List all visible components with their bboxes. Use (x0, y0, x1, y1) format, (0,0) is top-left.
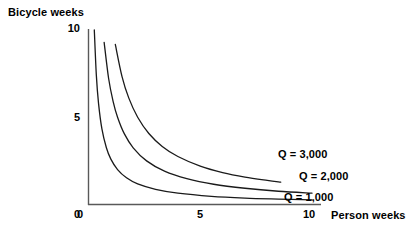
x-tick-label-10: 10 (300, 209, 318, 220)
curve-label-q3000: Q = 3,000 (278, 149, 328, 160)
curve-label-q1000: Q = 1,000 (284, 192, 334, 203)
x-axis-title: Person weeks (331, 210, 406, 221)
curve-label-q2000: Q = 2,000 (299, 171, 349, 182)
y-tick-label-10: 10 (62, 23, 80, 34)
y-tick-label-5: 5 (62, 112, 80, 123)
x-tick-label-0: 0 (71, 209, 89, 220)
x-tick-label-5: 5 (191, 209, 209, 220)
y-axis-title: Bicycle weeks (8, 7, 84, 18)
